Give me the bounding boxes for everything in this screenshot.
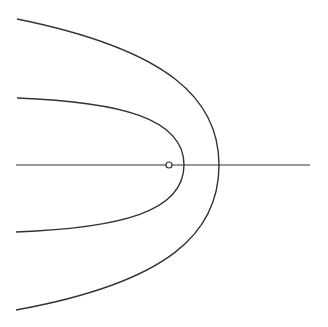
focus-point bbox=[166, 162, 172, 168]
parabola-diagram bbox=[0, 0, 328, 327]
